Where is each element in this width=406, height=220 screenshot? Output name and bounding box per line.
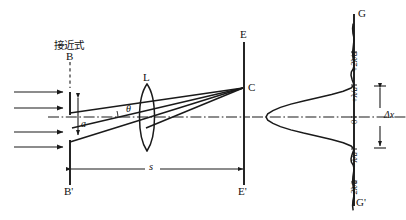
label-lens-L: L (143, 72, 150, 83)
label-E-bottom: E' (238, 186, 247, 197)
label-distance-s: s (149, 162, 153, 173)
approach-formula-annotation: 接近式 (54, 40, 84, 51)
figure-canvas: 接近式 B B' a θ L s E E' C G G' +2λ/a +λ/a … (0, 0, 406, 220)
label-delta-x: Δx (384, 110, 394, 120)
optics-diagram-svg (0, 0, 406, 220)
label-G-top: G (358, 8, 366, 19)
ray-bundle (70, 88, 243, 142)
label-C-point: C (248, 82, 255, 93)
label-B-top: B (66, 51, 73, 62)
pattern-tick-minus-2-lambda-over-a: −2λ/a (350, 180, 359, 200)
pattern-tick-minus-lambda-over-a: −λ/a (350, 152, 359, 168)
pattern-tick-zero: 0 (350, 120, 359, 124)
label-E-top: E (240, 29, 247, 40)
label-aperture-a: a (81, 119, 86, 129)
theta-angle-arc (117, 111, 118, 117)
pattern-tick-plus-2-lambda-over-a: +2λ/a (350, 52, 359, 72)
pattern-tick-plus-lambda-over-a: +λ/a (350, 87, 359, 103)
label-B-bottom: B' (64, 186, 73, 197)
incoming-wave-arrows (14, 92, 63, 147)
label-theta-angle: θ (126, 104, 131, 114)
